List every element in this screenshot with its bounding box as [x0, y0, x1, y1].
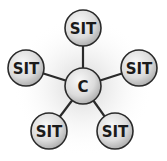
- satellite-node-right-label: SIT: [126, 60, 153, 78]
- satellite-node-bottom-right: SIT: [97, 113, 133, 149]
- satellite-node-bottom-left-label: SIT: [36, 123, 63, 141]
- satellite-node-bottom-left: SIT: [31, 113, 67, 149]
- satellite-node-top: SIT: [65, 10, 101, 46]
- satellite-node-bottom-right-label: SIT: [102, 123, 129, 141]
- satellite-node-left-label: SIT: [13, 60, 40, 78]
- satellite-node-left: SIT: [8, 50, 44, 86]
- center-node: C: [65, 68, 101, 104]
- satellite-node-top-label: SIT: [70, 20, 97, 38]
- hub-spoke-diagram: SITSITSITSITSITC: [0, 0, 167, 161]
- center-node-label: C: [77, 78, 88, 96]
- satellite-node-right: SIT: [121, 50, 157, 86]
